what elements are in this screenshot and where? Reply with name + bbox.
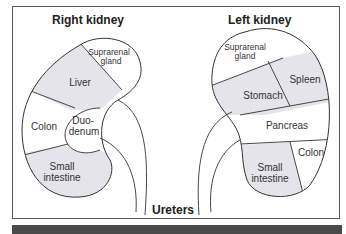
- left-suprarenal-label-2: gland: [235, 51, 256, 61]
- left-ureter-outer: [198, 112, 232, 215]
- right-ureter-outer: [118, 100, 147, 215]
- right-small-intestine-label-2: intestine: [43, 172, 81, 183]
- left-kidney: Suprarenal gland Spleen Stomach Pancreas…: [198, 29, 340, 215]
- left-colon-label: Colon: [298, 147, 324, 158]
- stomach-label: Stomach: [243, 90, 282, 101]
- pancreas-label: Pancreas: [266, 120, 308, 131]
- ureters-label: Ureters: [152, 203, 194, 217]
- kidney-relations-diagram: Right kidney Left kidney Suprarenal glan…: [0, 0, 346, 234]
- left-ureter-inner: [210, 140, 240, 212]
- left-small-intestine-label-1: Small: [257, 162, 282, 173]
- right-suprarenal-label-2: gland: [101, 56, 122, 66]
- duodenum-label-2: denum: [69, 126, 100, 137]
- duodenum-label-1: Duo-: [72, 115, 94, 126]
- right-kidney: Suprarenal gland Liver Colon Duo- denum …: [10, 38, 147, 215]
- liver-label: Liver: [69, 77, 91, 88]
- right-small-intestine-label-1: Small: [49, 161, 74, 172]
- left-small-intestine-label-2: intestine: [251, 173, 289, 184]
- right-kidney-title: Right kidney: [52, 13, 124, 27]
- right-colon-label: Colon: [31, 121, 57, 132]
- spleen-label: Spleen: [289, 74, 320, 85]
- left-kidney-title: Left kidney: [228, 13, 292, 27]
